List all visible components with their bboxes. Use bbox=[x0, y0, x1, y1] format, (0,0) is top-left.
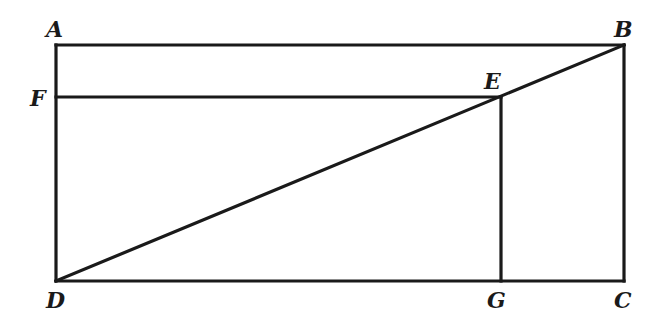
point-label-a: A bbox=[44, 16, 63, 42]
point-label-e: E bbox=[483, 68, 502, 94]
point-label-d: D bbox=[45, 287, 65, 313]
geometry-diagram: ABCDEFG bbox=[0, 0, 663, 323]
point-label-g: G bbox=[487, 287, 506, 313]
point-label-f: F bbox=[29, 85, 47, 111]
point-label-c: C bbox=[614, 287, 632, 313]
segment-db bbox=[56, 45, 624, 281]
point-label-b: B bbox=[613, 16, 633, 42]
